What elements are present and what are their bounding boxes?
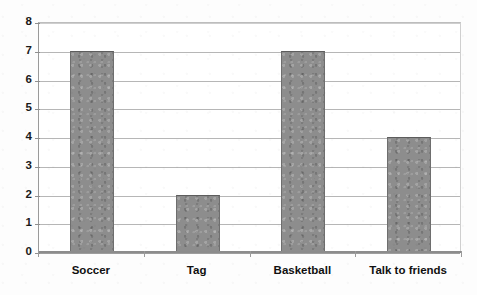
y-tick-mark-6	[35, 81, 40, 82]
y-tick-label-5: 5	[4, 103, 32, 115]
y-tick-label-6: 6	[4, 74, 32, 86]
y-tick-label-7: 7	[4, 45, 32, 57]
x-axis-labels: SoccerTagBasketballTalk to friends	[38, 262, 461, 284]
y-tick-mark-8	[35, 23, 40, 24]
bar-tag	[176, 195, 220, 253]
y-tick-label-0: 0	[4, 246, 32, 258]
bar-soccer	[70, 51, 114, 252]
y-tick-label-4: 4	[4, 131, 32, 143]
y-tick-mark-1	[35, 224, 40, 225]
plot-area	[38, 22, 461, 252]
x-tick-mark-2	[250, 251, 251, 257]
x-tick-label-soccer: Soccer	[38, 262, 144, 278]
x-tick-label-basketball: Basketball	[250, 262, 356, 278]
bar-talk-to-friends	[387, 137, 431, 252]
x-tick-mark-0	[38, 251, 39, 257]
bar-chart-figure: 012345678 SoccerTagBasketballTalk to fri…	[0, 0, 477, 295]
gridline-8	[39, 23, 460, 24]
y-tick-mark-3	[35, 167, 40, 168]
y-tick-mark-5	[35, 109, 40, 110]
bar-basketball	[281, 51, 325, 252]
y-tick-label-2: 2	[4, 189, 32, 201]
y-tick-mark-7	[35, 52, 40, 53]
y-tick-label-8: 8	[4, 16, 32, 28]
x-tick-mark-4	[461, 251, 462, 257]
y-tick-label-3: 3	[4, 160, 32, 172]
y-tick-label-1: 1	[4, 218, 32, 230]
y-axis-labels: 012345678	[0, 22, 32, 252]
y-tick-mark-4	[35, 138, 40, 139]
x-tick-mark-3	[355, 251, 356, 257]
x-tick-mark-1	[144, 251, 145, 257]
x-tick-label-tag: Tag	[144, 262, 250, 278]
y-tick-mark-2	[35, 196, 40, 197]
x-tick-label-talk-to-friends: Talk to friends	[355, 262, 461, 278]
